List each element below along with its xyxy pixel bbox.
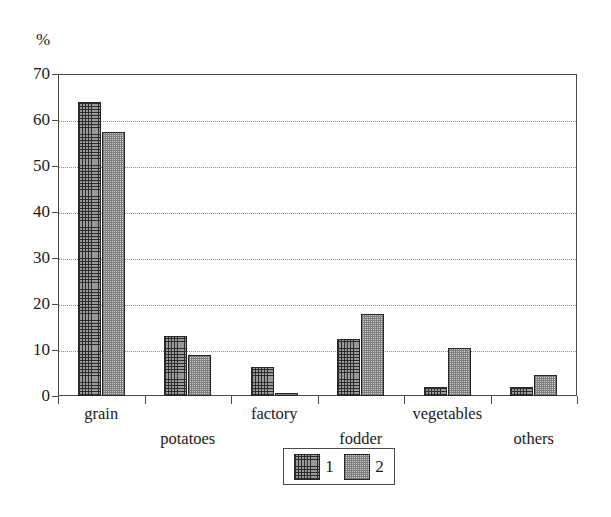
y-axis-tick-marks	[0, 74, 60, 396]
x-label-fodder: fodder	[339, 429, 382, 448]
x-tick-mark	[145, 396, 146, 404]
legend-swatch-series-2-icon	[344, 454, 370, 480]
bar-potatoes-series-1	[164, 336, 187, 396]
x-label-factory: factory	[251, 404, 298, 423]
x-tick-mark	[318, 396, 319, 404]
y-axis-unit-label: %	[36, 30, 50, 50]
legend-label-series-1: 1	[325, 458, 334, 475]
x-tick-mark	[491, 396, 492, 404]
bar-vegetables-series-1	[424, 387, 447, 396]
bar-group	[58, 74, 145, 396]
bars-layer	[58, 74, 577, 396]
x-label-potatoes: potatoes	[160, 429, 215, 448]
legend-entry-1: 1	[294, 454, 334, 480]
bar-grain-series-1	[78, 102, 101, 396]
bar-chart: % 010203040506070 grainpotatoesfactoryfo…	[0, 0, 611, 517]
chart-legend: 1 2	[283, 448, 395, 485]
legend-label-series-2: 2	[375, 458, 384, 475]
legend-swatch-series-1-icon	[294, 454, 320, 480]
bar-factory-series-1	[251, 367, 274, 396]
bar-fodder-series-2	[361, 314, 384, 396]
bar-group	[404, 74, 491, 396]
bar-group	[145, 74, 232, 396]
x-tick-mark	[577, 396, 578, 404]
bar-others-series-1	[510, 387, 533, 396]
bar-others-series-2	[534, 375, 557, 396]
bar-fodder-series-1	[337, 339, 360, 396]
bar-potatoes-series-2	[188, 355, 211, 396]
bar-vegetables-series-2	[448, 348, 471, 396]
x-tick-mark	[404, 396, 405, 404]
bar-group	[318, 74, 405, 396]
bar-group	[231, 74, 318, 396]
x-label-grain: grain	[84, 404, 118, 423]
x-label-vegetables: vegetables	[412, 404, 482, 423]
bar-group	[491, 74, 578, 396]
legend-entry-2: 2	[344, 454, 384, 480]
x-tick-mark	[58, 396, 59, 404]
x-label-others: others	[514, 429, 554, 448]
bar-grain-series-2	[102, 132, 125, 397]
x-tick-mark	[231, 396, 232, 404]
